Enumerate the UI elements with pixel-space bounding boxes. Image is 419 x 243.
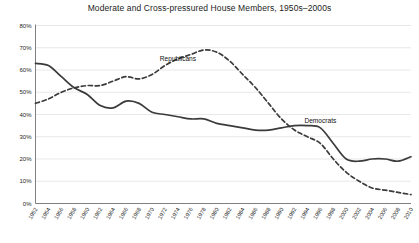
y-tick-label: 60% [19, 67, 32, 73]
x-tick-label: 1990 [273, 207, 284, 221]
y-tick-label: 70% [19, 45, 32, 51]
x-tick-label: 1970 [144, 207, 155, 221]
x-tick-label: 2010 [403, 207, 414, 221]
x-tick-label: 1978 [195, 207, 206, 221]
x-tick-label: 1974 [170, 207, 181, 221]
x-tick-label: 1998 [325, 207, 336, 221]
x-tick-label: 2008 [390, 207, 401, 221]
x-tick-label: 2000 [338, 207, 349, 221]
x-tick-label: 1958 [66, 207, 77, 221]
x-tick-label: 1976 [183, 207, 194, 221]
x-tick-label: 2004 [364, 207, 375, 221]
x-tick-label: 1968 [131, 207, 142, 221]
x-tick-label: 1962 [92, 207, 103, 221]
x-tick-label: 1984 [234, 207, 245, 221]
y-tick-label: 10% [19, 178, 32, 184]
y-tick-label: 0% [23, 201, 32, 207]
x-tick-label: 1952 [27, 207, 38, 221]
x-tick-label: 1982 [221, 207, 232, 221]
x-tick-label: 2002 [351, 207, 362, 221]
x-tick-label: 1994 [299, 207, 310, 221]
y-tick-label: 30% [19, 134, 32, 140]
series-label: Democrats [304, 117, 337, 124]
x-tick-label: 1988 [260, 207, 271, 221]
y-tick-label: 40% [19, 112, 32, 118]
series-line-democrats [36, 63, 412, 161]
x-tick-label: 1986 [247, 207, 258, 221]
gridlines [36, 26, 412, 204]
chart-figure: Moderate and Cross-pressured House Membe… [0, 0, 419, 243]
x-tick-label: 1954 [40, 207, 51, 221]
y-tick-label: 80% [19, 23, 32, 29]
x-tick-label: 2006 [377, 207, 388, 221]
x-tick-label: 1972 [157, 207, 168, 221]
x-tick-label: 1992 [286, 207, 297, 221]
x-tick-label: 1964 [105, 207, 116, 221]
y-axis-tick-labels: 0%10%20%30%40%50%60%70%80% [19, 23, 32, 207]
x-axis-tick-labels: 1952195419561958196019621964196619681970… [27, 207, 414, 221]
y-tick-label: 20% [19, 156, 32, 162]
x-tick-label: 1966 [118, 207, 129, 221]
y-tick-label: 50% [19, 89, 32, 95]
chart-plot: 0%10%20%30%40%50%60%70%80% 1952195419561… [0, 0, 419, 243]
series-annotations: RepublicansDemocrats [160, 55, 337, 124]
data-series-group [36, 50, 412, 195]
x-tick-label: 1996 [312, 207, 323, 221]
series-label: Republicans [160, 55, 197, 63]
x-tick-label: 1960 [79, 207, 90, 221]
series-line-republicans [36, 50, 412, 195]
x-tick-label: 1980 [208, 207, 219, 221]
x-tick-label: 1956 [53, 207, 64, 221]
